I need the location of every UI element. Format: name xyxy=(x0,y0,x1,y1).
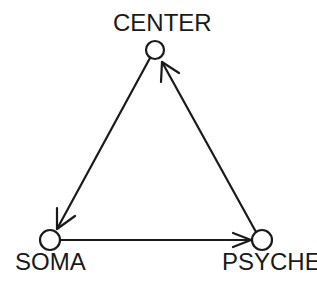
node-label-center: CENTER xyxy=(113,11,212,35)
node-soma-circle xyxy=(40,230,60,250)
edge-line xyxy=(162,62,256,232)
node-psyche-circle xyxy=(252,230,272,250)
edge-line xyxy=(57,58,150,229)
edge-center-to-soma xyxy=(57,58,150,229)
node-label-soma: SOMA xyxy=(15,250,86,274)
edge-psyche-to-center xyxy=(161,62,256,232)
node-label-psyche: PSYCHE xyxy=(222,250,317,274)
edge-soma-to-psyche xyxy=(60,233,251,247)
node-center-circle xyxy=(146,41,164,59)
